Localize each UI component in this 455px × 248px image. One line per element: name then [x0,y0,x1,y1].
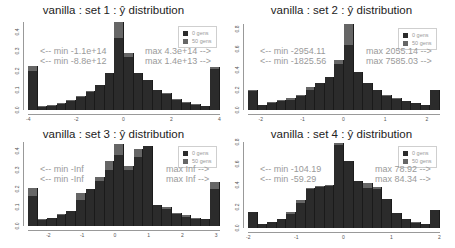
bar-0-gens [258,224,268,228]
bar-0-gens [201,219,211,226]
bar-0-gens [354,181,364,228]
histogram-bar [76,142,86,226]
bar-0-gens [392,213,402,228]
bar-0-gens [124,170,134,226]
histogram-bar [248,142,258,228]
histogram-bar [143,142,153,226]
legend-swatch [183,39,188,44]
x-tick-label: 4 [218,116,221,122]
max-50-gens: max 84.34 --> [375,174,431,184]
x-axis [248,114,440,115]
histogram-bar [105,142,115,226]
histogram-bar [315,142,325,228]
bar-0-gens [315,83,325,110]
bar-0-gens [153,90,163,110]
bar-0-gens [363,83,373,110]
legend-swatch [183,151,188,156]
y-tick-label: 0.2 [14,64,20,78]
bar-0-gens [373,189,383,228]
bar-0-gens [134,157,144,226]
y-tick-label: 0.4 [14,144,20,158]
bar-0-gens [344,161,354,228]
histogram-bar [162,22,172,110]
legend-swatch [183,31,188,36]
histogram-bar [354,142,364,228]
x-tick-label: 2 [170,116,173,122]
histogram-bar [134,142,144,226]
histogram-bar [95,22,105,110]
panel-title: vanilla : set 3 : ŷ distribution [0,128,227,140]
y-tick-label: 0.6 [234,157,240,171]
bar-0-gens [344,45,354,110]
y-tick-label: 0.2 [234,200,240,214]
legend-item: 0 gens [403,31,432,39]
histogram-bar [95,142,105,226]
histogram-bar [354,24,364,110]
bar-0-gens [143,80,153,110]
legend-label: 0 gens [192,30,209,36]
histogram-bar [47,142,57,226]
bar-0-gens [325,77,335,110]
panel-title: vanilla : set 2 : ŷ distribution [228,4,455,16]
bar-0-gens [143,146,153,226]
x-tick-label: 0 [122,116,125,122]
bar-0-gens [277,101,287,110]
histogram-bar [258,142,268,228]
histogram-bar [296,142,306,228]
histogram-bar [76,22,86,110]
x-axis [248,232,440,233]
histogram-bar [382,142,392,228]
bar-0-gens [201,106,211,110]
histogram-bar [57,22,67,110]
bar-0-gens [248,91,258,110]
bar-0-gens [286,214,296,228]
y-tick-label: 0.4 [14,25,20,39]
histogram-bar [143,22,153,110]
y-tick-label: 0.4 [234,63,240,77]
bar-0-gens [66,101,76,110]
bar-0-gens [95,85,105,110]
bar-0-gens [267,222,277,228]
histogram-bar [382,24,392,110]
bar-0-gens [382,199,392,228]
bar-0-gens [363,188,373,228]
bar-0-gens [153,205,163,226]
histogram-bar [66,142,76,226]
legend-label: 0 gens [412,32,429,38]
max-50-gens: max 7585.03 --> [366,56,432,66]
x-tick-label: -4 [26,116,30,122]
histogram-bar [86,142,96,226]
max-0-gens: max 4.3e+14 --> [145,46,211,56]
bar-0-gens [114,155,124,226]
legend-item: 50 gens [183,37,212,45]
bar-0-gens [334,145,344,228]
bar-0-gens [411,103,421,110]
bar-0-gens [210,69,220,110]
bar-0-gens [306,90,316,110]
legend-label: 0 gens [192,150,209,156]
bar-0-gens [162,209,172,226]
bar-0-gens [430,90,440,110]
x-tick-label: 0 [342,116,345,122]
bar-0-gens [191,219,201,226]
bar-0-gens [86,92,96,110]
bar-0-gens [172,100,182,110]
bar-0-gens [325,186,335,228]
histogram-bar [153,142,163,226]
histogram-bar [267,24,277,110]
histogram-bar [344,142,354,228]
x-tick-label: 0 [114,232,117,238]
bar-0-gens [430,210,440,228]
bar-0-gens [182,217,192,226]
max-0-gens: max 78.92 --> [375,164,431,174]
histogram-bar [334,142,344,228]
min-50-gens: <-- min -Inf [40,174,84,184]
x-tick-label: -2 [259,116,263,122]
bar-0-gens [373,90,383,110]
x-tick-label: 2 [425,116,428,122]
bar-0-gens [286,100,296,110]
legend-item: 0 gens [183,149,212,157]
bar-0-gens [172,214,182,226]
histogram-bar [134,22,144,110]
min-0-gens: <-- min -104.19 [260,164,321,174]
